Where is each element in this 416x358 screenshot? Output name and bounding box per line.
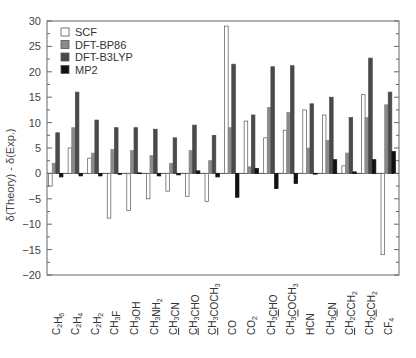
- bar-group: [381, 92, 395, 255]
- bar-group: [225, 26, 239, 197]
- bar-mp2: [157, 173, 161, 176]
- bar-scf: [166, 173, 170, 191]
- x-axis-labels: C2H6C2H4C2H2CH3FCH3OHCH3NH2CH3CNCH3CHOCH…: [51, 283, 395, 335]
- y-tick-label: −20: [22, 269, 41, 281]
- x-tick-label: CF4: [383, 318, 395, 335]
- bar-dft-bp86: [189, 151, 193, 174]
- bar-mp2: [333, 160, 337, 174]
- bar-mp2: [196, 171, 200, 174]
- bar-scf: [205, 173, 209, 201]
- bar-scf: [361, 95, 365, 174]
- legend-swatch: [61, 66, 69, 74]
- bar-mp2: [314, 173, 318, 174]
- bar-dft-bp86: [72, 128, 76, 174]
- bar-dft-bp86: [346, 153, 350, 173]
- bar-group: [68, 92, 82, 176]
- bar-dft-bp86: [209, 161, 213, 174]
- bar-group: [146, 129, 160, 199]
- bar-mp2: [98, 173, 102, 176]
- x-tick-label: CH3COCH3: [207, 283, 221, 335]
- bar-dft-bp86: [365, 118, 369, 174]
- bar-dft-b3lyp: [212, 135, 216, 173]
- x-tick-label: CH3F: [109, 311, 122, 335]
- bar-group: [185, 125, 199, 196]
- legend: SCFDFT-BP86DFT-B3LYPMP2: [61, 26, 133, 76]
- bar-scf: [244, 121, 248, 173]
- legend-label: DFT-BP86: [75, 39, 126, 51]
- bar-dft-bp86: [306, 148, 310, 173]
- x-tick-label: CO: [227, 320, 238, 335]
- x-tick-label: CH2CCH2: [344, 291, 358, 335]
- bar-mp2: [392, 152, 396, 174]
- bar-chart: −20−15−10−5051015202530 δ(Theory) - δ(Ex…: [0, 0, 416, 358]
- x-tick-label: C2H4: [70, 313, 84, 335]
- bar-scf: [342, 166, 346, 174]
- x-tick-label: CH3CN: [325, 302, 338, 335]
- x-tick-label: C2H6: [51, 313, 65, 335]
- bar-scf: [107, 173, 111, 218]
- bar-group: [49, 133, 63, 186]
- x-tick-label: CH3CN: [168, 302, 181, 335]
- y-axis-title: δ(Theory) - δ(Exp.): [4, 129, 16, 222]
- bar-dft-bp86: [170, 163, 174, 173]
- bar-dft-b3lyp: [95, 120, 99, 173]
- bar-dft-bp86: [111, 150, 115, 174]
- bar-mp2: [255, 168, 259, 173]
- legend-label: DFT-B3LYP: [75, 51, 133, 63]
- bar-group: [166, 138, 180, 191]
- bar-dft-b3lyp: [114, 128, 118, 174]
- bar-dft-bp86: [267, 107, 271, 173]
- bar-dft-b3lyp: [349, 118, 353, 174]
- x-tick-label: CH3CHO: [266, 294, 279, 335]
- legend-label: MP2: [75, 64, 98, 76]
- bar-scf: [68, 148, 72, 173]
- bar-dft-b3lyp: [173, 138, 177, 174]
- bar-group: [244, 115, 258, 173]
- y-tick-label: −10: [22, 218, 41, 230]
- bar-mp2: [353, 172, 357, 174]
- bar-dft-bp86: [287, 112, 291, 173]
- y-tick-label: 30: [29, 15, 41, 27]
- bar-group: [88, 120, 102, 176]
- x-tick-label: HCN: [305, 313, 316, 335]
- bar-group: [127, 128, 141, 211]
- bar-dft-bp86: [150, 156, 154, 174]
- y-tick-label: −5: [28, 193, 41, 205]
- x-tick-label: CH3OH: [129, 302, 142, 335]
- y-tick-label: 10: [29, 117, 41, 129]
- bar-mp2: [235, 173, 239, 197]
- bar-dft-b3lyp: [388, 92, 392, 173]
- x-tick-label: CH2CCH2: [364, 291, 378, 335]
- x-tick-label: CH3NH2: [149, 298, 163, 335]
- bar-dft-b3lyp: [330, 97, 334, 173]
- y-tick-label: 15: [29, 91, 41, 103]
- bar-dft-bp86: [91, 153, 95, 173]
- bar-mp2: [372, 160, 376, 174]
- y-tick-label: 5: [35, 142, 41, 154]
- x-tick-label: C2H2: [90, 313, 104, 335]
- legend-swatch: [61, 53, 69, 61]
- bar-dft-b3lyp: [271, 67, 275, 174]
- bar-group: [283, 66, 297, 184]
- bar-dft-b3lyp: [232, 64, 236, 173]
- bar-group: [205, 135, 219, 201]
- y-tick-label: 20: [29, 66, 41, 78]
- bar-dft-b3lyp: [251, 115, 255, 173]
- bar-scf: [303, 110, 307, 173]
- bar-mp2: [118, 173, 122, 174]
- bar-scf: [49, 173, 53, 186]
- bar-scf: [146, 173, 150, 198]
- bar-group: [342, 118, 356, 174]
- bar-dft-bp86: [130, 151, 134, 174]
- bar-scf: [283, 130, 287, 173]
- bar-scf: [88, 158, 92, 173]
- legend-swatch: [61, 41, 69, 49]
- bar-scf: [185, 173, 189, 196]
- bar-dft-b3lyp: [154, 129, 158, 173]
- bar-mp2: [294, 173, 298, 183]
- bar-mp2: [138, 173, 142, 174]
- bar-scf: [322, 115, 326, 173]
- bar-scf: [225, 26, 229, 173]
- y-tick-label: −15: [22, 244, 41, 256]
- bar-group: [107, 128, 121, 218]
